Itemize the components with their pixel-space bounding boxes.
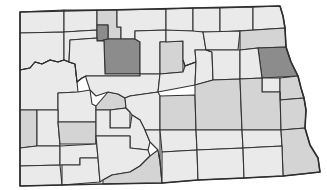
county-mcintosh[interactable] [162, 150, 198, 183]
county-ramsey[interactable] [203, 31, 240, 50]
county-towner[interactable] [193, 8, 220, 32]
north-dakota-county-map [0, 0, 327, 190]
county-logan[interactable] [160, 130, 197, 152]
county-ransom[interactable] [242, 130, 282, 148]
county-lamoure[interactable] [196, 130, 243, 150]
county-dickey[interactable] [197, 148, 244, 180]
county-sargent[interactable] [243, 146, 283, 178]
county-golden-valley[interactable] [20, 110, 37, 148]
county-ward-west[interactable] [97, 25, 108, 41]
county-oliver[interactable] [110, 108, 130, 128]
county-burke[interactable] [64, 10, 97, 32]
county-dunn[interactable] [58, 90, 96, 122]
county-kidder[interactable] [160, 95, 196, 130]
county-slope[interactable] [20, 146, 60, 166]
county-cavalier[interactable] [220, 7, 253, 32]
county-griggs[interactable] [240, 48, 262, 79]
county-eddy[interactable] [195, 50, 213, 85]
county-pembina[interactable] [253, 6, 285, 30]
county-divide[interactable] [20, 10, 64, 33]
county-stark[interactable] [58, 122, 96, 144]
county-billings[interactable] [37, 110, 60, 146]
county-stutsman[interactable] [195, 79, 242, 130]
county-rolette[interactable] [166, 8, 193, 31]
county-bowman[interactable] [20, 165, 62, 186]
county-steele[interactable] [262, 78, 280, 92]
county-pierce[interactable] [160, 41, 183, 74]
